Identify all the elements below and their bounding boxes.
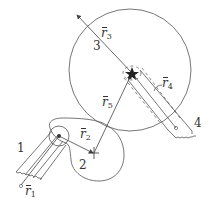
- r2-label: r2: [80, 128, 91, 142]
- r5-label: r5: [102, 96, 113, 110]
- r4-label: r4: [162, 77, 173, 91]
- link3-label: 3: [93, 40, 101, 52]
- link1-label: 1: [17, 142, 25, 154]
- r3-arrow: [77, 15, 132, 73]
- mechanism-diagram: 1 2 3 4 r1 r2 r3 r4 r5: [0, 0, 210, 209]
- r3-label: r3: [101, 27, 112, 41]
- disk-center-pivot: [125, 67, 139, 80]
- link4-label: 4: [194, 117, 202, 129]
- lobe-center-cross: [88, 147, 99, 159]
- r1-label: r1: [25, 185, 36, 199]
- r4-leader: [154, 85, 162, 91]
- r5-arrow: [94, 75, 131, 153]
- link1-slot: [16, 131, 66, 180]
- link2-label: 2: [79, 159, 87, 171]
- link3-disk: [69, 9, 191, 131]
